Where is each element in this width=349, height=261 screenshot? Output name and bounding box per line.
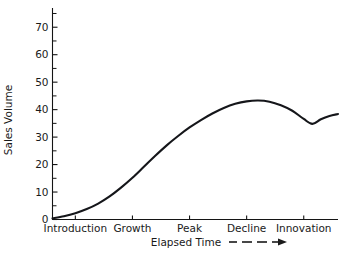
elapsed-time-arrow-icon	[229, 239, 287, 246]
y-axis-tick-labels: 010203040506070	[35, 21, 48, 225]
x-axis-title: Elapsed Time	[151, 236, 221, 248]
chart-figure: 010203040506070 IntroductionGrowthPeakDe…	[0, 0, 349, 261]
y-axis-tick-label: 10	[35, 186, 48, 198]
x-axis-tick-label: Introduction	[44, 222, 108, 234]
y-axis-tick-label: 40	[35, 103, 48, 115]
sales-volume-curve	[53, 101, 339, 219]
y-axis-title: Sales Volume	[2, 85, 14, 155]
y-axis-tick-label: 30	[35, 131, 48, 143]
x-axis-tick-labels: IntroductionGrowthPeakDeclineInnovation	[44, 222, 332, 234]
y-axis-tick-label: 20	[35, 158, 48, 170]
x-axis-tick-label: Peak	[177, 222, 203, 234]
x-axis-tick-label: Innovation	[276, 222, 332, 234]
sales-volume-line-chart: 010203040506070 IntroductionGrowthPeakDe…	[0, 0, 349, 261]
y-axis-tick-label: 70	[35, 21, 48, 33]
x-axis-ticks	[75, 216, 303, 220]
y-axis-tick-label: 50	[35, 76, 48, 88]
x-axis-tick-label: Decline	[227, 222, 266, 234]
x-axis-tick-label: Growth	[113, 222, 151, 234]
y-axis-tick-label: 60	[35, 48, 48, 60]
